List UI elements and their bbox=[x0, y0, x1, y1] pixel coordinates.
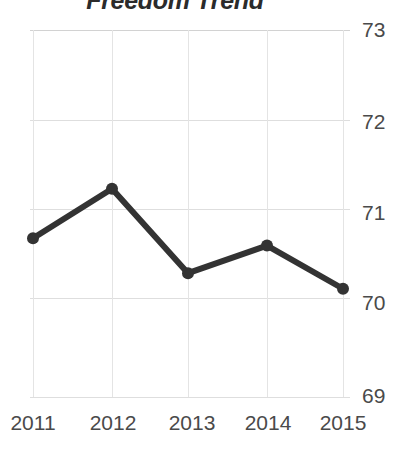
data-point-2011 bbox=[27, 232, 39, 244]
data-point-2014 bbox=[261, 240, 273, 252]
series-markers bbox=[27, 183, 349, 295]
data-point-2013 bbox=[182, 267, 194, 279]
line-chart: Freedom Trend 73 72 71 70 69 2011 2012 2… bbox=[0, 0, 416, 459]
data-point-2015 bbox=[337, 283, 349, 295]
series-layer bbox=[0, 0, 416, 459]
data-point-2012 bbox=[106, 183, 118, 195]
